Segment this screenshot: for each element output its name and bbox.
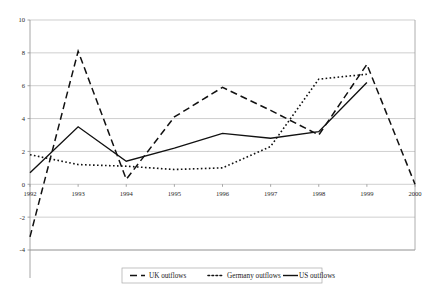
x-tick-label: 1995 xyxy=(168,190,182,197)
series-line xyxy=(30,82,367,172)
x-tick-labels: 199219931994199519961997199819992000 xyxy=(23,184,422,197)
x-tick-label: 1999 xyxy=(360,190,374,197)
line-chart: -4-20246810 1992199319941995199619971998… xyxy=(0,0,437,296)
y-tick-label: 8 xyxy=(22,49,26,56)
legend-item-label: US outflows xyxy=(299,272,335,280)
x-tick-label: 1994 xyxy=(120,190,134,197)
series-group xyxy=(30,51,415,237)
x-tick-label: 1998 xyxy=(312,190,326,197)
x-tick-label: 1992 xyxy=(23,190,36,197)
series-line xyxy=(30,74,367,169)
x-tick-label: 1996 xyxy=(216,190,230,197)
chart-legend: UK outflowsGermany outflowsUS outflows xyxy=(122,268,335,283)
plot-frame xyxy=(30,20,415,250)
y-tick-label: 6 xyxy=(22,82,26,89)
y-tick-label: 4 xyxy=(22,115,26,122)
chart-canvas: -4-20246810 1992199319941995199619971998… xyxy=(0,0,437,296)
gridlines-group xyxy=(30,20,415,250)
x-tick-label: 1997 xyxy=(264,190,278,197)
y-tick-label: 0 xyxy=(22,181,26,188)
series-line xyxy=(30,51,415,237)
y-tick-label: 10 xyxy=(18,16,25,23)
x-tick-label: 1993 xyxy=(72,190,86,197)
x-tick-label: 2000 xyxy=(408,190,422,197)
y-tick-label: -2 xyxy=(20,214,26,221)
legend-item-label: Germany outflows xyxy=(227,272,281,280)
y-tick-label: 2 xyxy=(22,148,25,155)
y-tick-labels: -4-20246810 xyxy=(18,16,30,253)
y-tick-label: -4 xyxy=(20,246,26,253)
legend-item-label: UK outflows xyxy=(149,272,187,280)
